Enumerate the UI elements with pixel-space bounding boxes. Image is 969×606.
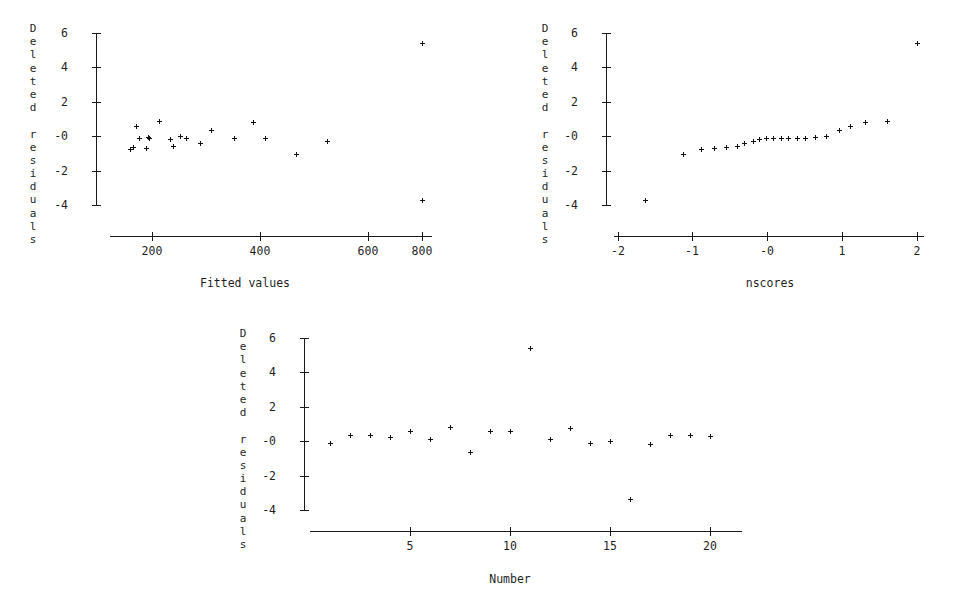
data-point xyxy=(209,128,214,133)
data-point xyxy=(144,146,149,151)
data-point xyxy=(751,139,756,144)
data-point xyxy=(648,442,653,447)
data-point xyxy=(408,429,413,434)
plot-residuals-vs-nscores: Deleted residuals 642-0-2-4 -2-1-012 nsc… xyxy=(490,0,969,310)
data-point xyxy=(137,136,142,141)
data-point xyxy=(779,136,784,141)
data-point xyxy=(643,198,648,203)
data-point xyxy=(294,152,299,157)
data-point xyxy=(420,198,425,203)
data-point xyxy=(771,136,776,141)
data-point xyxy=(232,136,237,141)
data-point xyxy=(681,152,686,157)
data-point xyxy=(488,429,493,434)
plot-residuals-vs-number: Deleted residuals 642-0-2-4 5101520 Numb… xyxy=(0,310,969,606)
data-point xyxy=(742,141,747,146)
data-point xyxy=(508,429,513,434)
data-point xyxy=(837,128,842,133)
data-point xyxy=(795,136,800,141)
data-point xyxy=(388,435,393,440)
data-point xyxy=(548,437,553,442)
data-point xyxy=(128,147,133,152)
data-point xyxy=(568,426,573,431)
data-point xyxy=(757,137,762,142)
data-point xyxy=(608,439,613,444)
data-point xyxy=(420,41,425,46)
data-point xyxy=(863,120,868,125)
data-point xyxy=(325,139,330,144)
data-point xyxy=(328,441,333,446)
data-point xyxy=(588,441,593,446)
data-points-fitted xyxy=(0,0,490,310)
data-point xyxy=(628,497,633,502)
data-point xyxy=(131,145,136,150)
data-point xyxy=(428,437,433,442)
data-point xyxy=(712,146,717,151)
data-points-nscores xyxy=(490,0,969,310)
data-point xyxy=(147,136,152,141)
data-point xyxy=(171,144,176,149)
data-point xyxy=(688,433,693,438)
data-point xyxy=(251,120,256,125)
data-point xyxy=(184,136,189,141)
data-point xyxy=(668,433,673,438)
data-point xyxy=(448,425,453,430)
data-point xyxy=(198,141,203,146)
data-point xyxy=(368,433,373,438)
data-point xyxy=(786,136,791,141)
data-point xyxy=(735,144,740,149)
data-point xyxy=(157,119,162,124)
data-point xyxy=(468,450,473,455)
data-point xyxy=(724,145,729,150)
data-point xyxy=(146,135,151,140)
data-point xyxy=(848,124,853,129)
data-points-number xyxy=(0,310,969,606)
data-point xyxy=(824,134,829,139)
data-point xyxy=(134,124,139,129)
data-point xyxy=(915,41,920,46)
data-point xyxy=(764,136,769,141)
plot-residuals-vs-fitted: Deleted residuals 642-0-2-4 200400600800… xyxy=(0,0,490,310)
data-point xyxy=(803,136,808,141)
data-point xyxy=(178,134,183,139)
data-point xyxy=(699,147,704,152)
data-point xyxy=(263,136,268,141)
data-point xyxy=(708,434,713,439)
data-point xyxy=(885,119,890,124)
data-point xyxy=(168,137,173,142)
data-point xyxy=(528,346,533,351)
data-point xyxy=(813,135,818,140)
data-point xyxy=(348,433,353,438)
